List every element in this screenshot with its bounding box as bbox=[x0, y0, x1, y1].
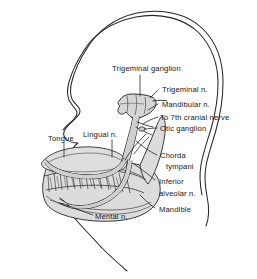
label-inferior-alveolar-line2: alveolar n. bbox=[159, 189, 196, 199]
anatomy-figure: Trigeminal ganglion Trigeminal n. Mandib… bbox=[0, 0, 257, 279]
anatomy-illustration bbox=[0, 0, 257, 279]
label-mental-n: Mental n. bbox=[95, 212, 128, 222]
label-chorda-tympani-line2: tympani bbox=[166, 162, 194, 172]
label-to-7th-cranial-nerve: To 7th cranial nerve bbox=[160, 113, 229, 123]
leader-7th-cranial bbox=[143, 117, 158, 124]
label-lingual-n: Lingual n. bbox=[83, 130, 117, 140]
label-inferior-alveolar-line1: Inferior bbox=[159, 177, 184, 187]
label-tongue: Tongue bbox=[48, 134, 74, 144]
leader-trigeminal-n bbox=[150, 90, 158, 98]
label-trigeminal-ganglion: Trigeminal ganglion bbox=[112, 64, 181, 74]
label-trigeminal-n: Trigeminal n. bbox=[162, 85, 208, 95]
label-chorda-tympani-line1: Chorda bbox=[160, 151, 186, 161]
label-otic-ganglion: Otic ganglion bbox=[160, 124, 206, 134]
label-mandibular-n: Mandibular n. bbox=[162, 100, 210, 110]
head-outline bbox=[63, 11, 223, 271]
label-mandible: Mandible bbox=[159, 205, 191, 215]
